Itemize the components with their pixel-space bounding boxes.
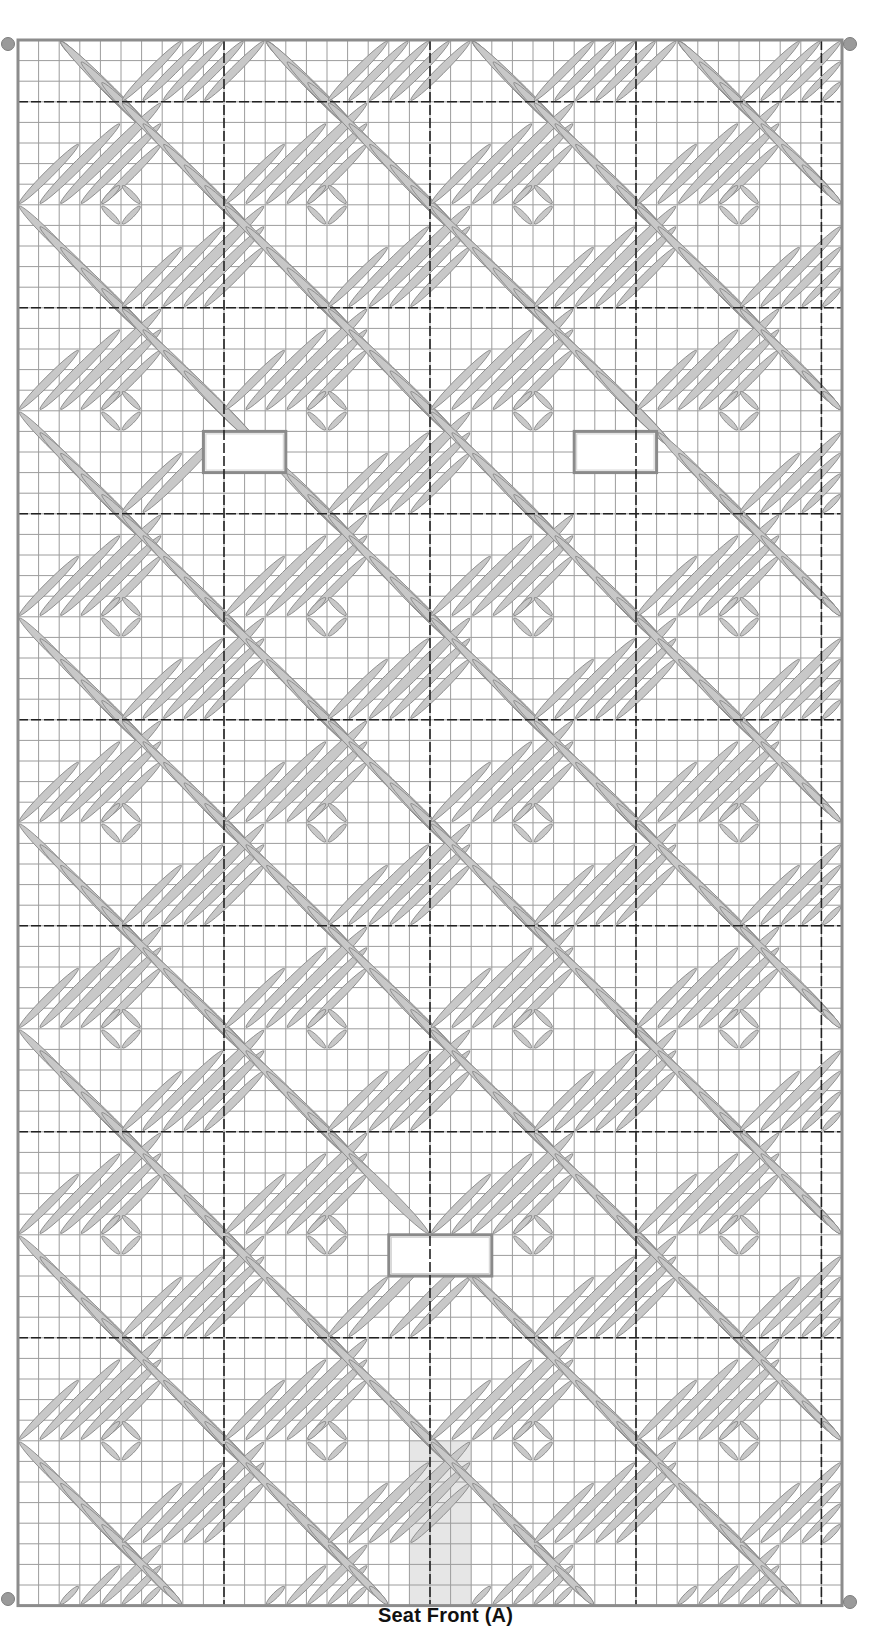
cutout-upper-right [574,431,656,472]
corner-marker-top-right [843,37,857,51]
cutout-upper-left [203,431,285,472]
cutout-lower-center [389,1235,492,1276]
chart-title: Seat Front (A) [0,1604,891,1627]
corner-marker-top-left [1,37,15,51]
